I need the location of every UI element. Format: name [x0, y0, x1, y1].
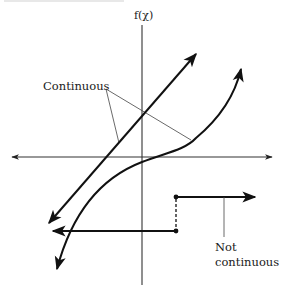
- not-continuous-label: Not continuous: [215, 240, 279, 270]
- step-lower-endpoint-dot: [174, 229, 179, 234]
- cubic-curve-function: [57, 69, 241, 269]
- continuous-leader-line-to-straight: [106, 89, 119, 143]
- step-upper-endpoint-dot: [174, 195, 179, 200]
- not-continuous-label-line2: continuous: [215, 255, 279, 270]
- not-continuous-label-line1: Not: [215, 240, 279, 255]
- y-axis-label: f(χ): [134, 10, 153, 21]
- continuity-diagram: f(χ) Continuous Not continuous: [0, 0, 286, 293]
- continuous-label: Continuous: [43, 81, 109, 93]
- continuous-leader-line-to-curve: [106, 89, 191, 140]
